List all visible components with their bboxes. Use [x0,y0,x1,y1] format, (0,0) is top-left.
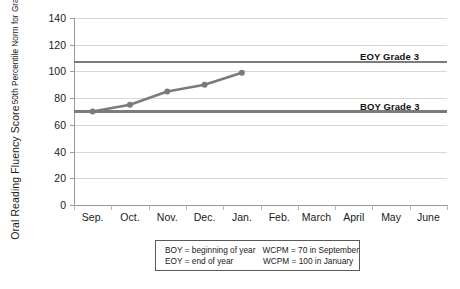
series-data-point [127,102,133,108]
note-boy-definition: BOY = beginning of year [165,245,262,256]
series-data-point [90,109,96,115]
notes-row: EOY = end of year WCPM = 100 in January [165,256,359,267]
note-eoy-definition: EOY = end of year [165,256,263,267]
note-wcpm-september: WCPM = 70 in September [262,245,359,256]
notes-legend-box: BOY = beginning of year WCPM = 70 in Sep… [155,240,360,271]
series-data-point [164,88,170,94]
series-data-point [202,82,208,88]
notes-row: BOY = beginning of year WCPM = 70 in Sep… [165,245,359,256]
oral-reading-fluency-chart: Oral Reading Fluency Score 50th Percenti… [0,0,460,289]
note-wcpm-january: WCPM = 100 in January [263,256,353,267]
series-data-point [239,70,245,76]
